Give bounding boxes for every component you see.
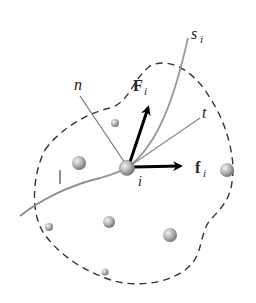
label-n: n bbox=[74, 76, 82, 93]
particle bbox=[72, 156, 86, 170]
internal-force-arrow bbox=[134, 166, 180, 167]
other-particles bbox=[45, 119, 234, 276]
tangent-axis-t bbox=[130, 118, 200, 166]
label-f: f bbox=[195, 159, 201, 176]
particle bbox=[111, 119, 119, 127]
particle bbox=[102, 269, 109, 276]
label-t: t bbox=[202, 104, 207, 121]
external-force-arrow bbox=[130, 108, 148, 162]
particle bbox=[220, 163, 234, 177]
label-F: F bbox=[133, 77, 143, 94]
normal-axis-n bbox=[80, 96, 127, 166]
label-s: s bbox=[191, 25, 197, 42]
label-F-sub: i bbox=[144, 85, 147, 97]
particle-i bbox=[120, 161, 135, 176]
label-i: i bbox=[138, 174, 142, 189]
path-curve-s-i bbox=[20, 38, 188, 216]
particle bbox=[163, 228, 177, 242]
label-s-sub: i bbox=[200, 33, 203, 45]
system-of-particles-diagram: s i n t F i f i i bbox=[0, 0, 256, 303]
particle bbox=[45, 223, 53, 231]
label-f-sub: i bbox=[203, 167, 206, 179]
particle bbox=[103, 216, 115, 228]
